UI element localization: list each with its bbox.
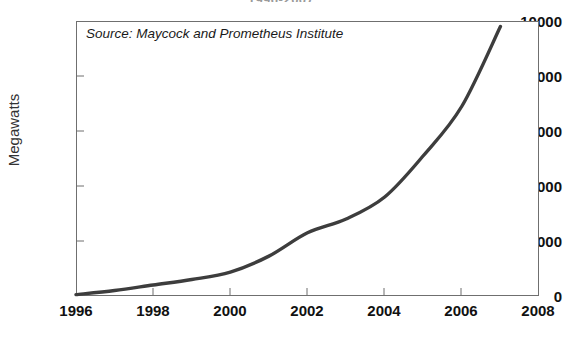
y-axis-label: Megawatts <box>5 80 23 180</box>
x-tick-2006: 2006 <box>431 303 491 318</box>
x-tick-2000: 2000 <box>200 303 260 318</box>
x-tick-1998: 1998 <box>123 303 183 318</box>
source-note: Source: Maycock and Prometheus Institute <box>86 26 343 41</box>
chart-title: 1996-2007 <box>0 0 562 2</box>
x-tick-2004: 2004 <box>354 303 414 318</box>
x-tick-1996: 1996 <box>46 303 106 318</box>
x-tick-2002: 2002 <box>277 303 337 318</box>
x-tick-2008: 2008 <box>508 303 567 318</box>
plot-area <box>76 21 539 296</box>
